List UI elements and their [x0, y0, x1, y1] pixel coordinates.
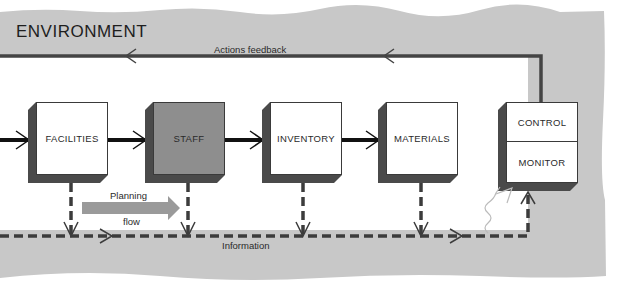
environment-title: ENVIRONMENT	[16, 22, 147, 42]
information-label: Information	[222, 240, 270, 251]
actions-feedback-label: Actions feedback	[214, 44, 286, 55]
flow-label: flow	[123, 216, 140, 227]
diagram-canvas: ENVIRONMENT Actions feedback FACILITIES …	[0, 0, 624, 287]
node-inventory[interactable]: INVENTORY	[270, 102, 342, 175]
node-facilities[interactable]: FACILITIES	[36, 102, 108, 175]
node-materials[interactable]: MATERIALS	[386, 102, 458, 175]
node-monitor[interactable]: MONITOR	[506, 141, 578, 183]
node-control[interactable]: CONTROL	[506, 102, 578, 143]
node-staff[interactable]: STAFF	[153, 102, 225, 175]
planning-label: Planning	[110, 190, 147, 201]
